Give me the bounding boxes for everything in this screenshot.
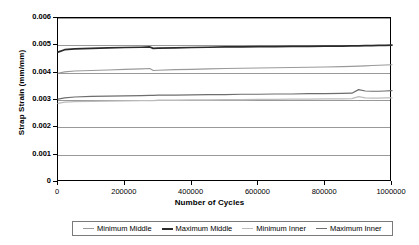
legend-item-0[interactable]: Minimum Middle <box>83 225 152 233</box>
legend-label-1: Maximum Middle <box>176 225 233 233</box>
x-tick-1 <box>124 181 125 185</box>
series-line-3 <box>58 90 392 100</box>
legend-swatch-icon-2 <box>242 228 253 229</box>
x-axis-title: Number of Cycles <box>0 198 419 207</box>
legend-swatch-icon-3 <box>316 228 327 229</box>
series-layer <box>58 18 392 182</box>
legend-swatch-icon-1 <box>162 228 173 230</box>
x-tick-2 <box>191 181 192 185</box>
x-tick-3 <box>257 181 258 185</box>
legend-item-2[interactable]: Minimum Inner <box>242 225 306 233</box>
x-tick-label-5: 1000000 <box>361 187 419 196</box>
legend-label-0: Minimum Middle <box>97 225 152 233</box>
x-tick-label-3: 600000 <box>227 187 287 196</box>
legend-label-2: Minimum Inner <box>256 225 306 233</box>
y-tick-6 <box>53 17 57 18</box>
series-line-0 <box>58 65 392 73</box>
x-tick-label-0: 0 <box>27 187 87 196</box>
series-line-1 <box>58 45 392 52</box>
legend-item-3[interactable]: Maximum Inner <box>316 225 382 233</box>
y-tick-1 <box>53 154 57 155</box>
plot-area <box>57 17 391 181</box>
x-tick-0 <box>57 181 58 185</box>
y-tick-4 <box>53 72 57 73</box>
x-tick-label-2: 400000 <box>161 187 221 196</box>
legend: Minimum MiddleMaximum MiddleMinimum Inne… <box>72 221 393 236</box>
legend-item-1[interactable]: Maximum Middle <box>162 225 233 233</box>
y-tick-3 <box>53 99 57 100</box>
x-tick-label-1: 200000 <box>94 187 154 196</box>
legend-swatch-icon-0 <box>83 228 94 229</box>
y-tick-5 <box>53 44 57 45</box>
x-tick-label-4: 800000 <box>294 187 354 196</box>
x-tick-5 <box>391 181 392 185</box>
y-tick-2 <box>53 126 57 127</box>
y-axis-title: Strap Strain (mm/mm) <box>17 18 26 168</box>
legend-label-3: Maximum Inner <box>330 225 382 233</box>
y-tick-label-0: 0 <box>10 176 51 185</box>
x-tick-4 <box>324 181 325 185</box>
line-chart: 00.0010.0020.0030.0040.0050.006 02000004… <box>0 0 419 245</box>
series-line-2 <box>58 97 392 104</box>
